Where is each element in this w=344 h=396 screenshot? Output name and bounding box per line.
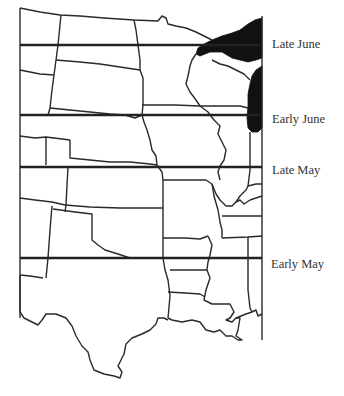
border-ne-ia — [142, 115, 163, 180]
border-ok-panhandle — [46, 206, 52, 278]
border-ar-east — [207, 236, 212, 270]
border-il-in — [248, 132, 250, 186]
border-il-ky — [236, 184, 262, 202]
border-mo-ar — [163, 236, 208, 239]
north-border — [20, 8, 212, 40]
border-tx-la — [163, 258, 170, 318]
border-sd-ne — [50, 108, 142, 118]
label-early-may: Early May — [271, 257, 324, 272]
border-ia-mo — [163, 180, 212, 184]
border-nd-sd — [56, 60, 140, 70]
border-mo-ar-bootheel — [212, 184, 222, 238]
border-wy-mt — [20, 70, 54, 75]
border-wi-il — [200, 106, 248, 108]
gulf-coast-ms — [236, 310, 262, 318]
central-us-map — [0, 0, 344, 396]
lake-michigan — [247, 66, 262, 132]
texas-outline — [20, 275, 168, 378]
border-ms-al — [248, 237, 252, 312]
border-mn-wi — [186, 54, 200, 106]
border-in-ky — [250, 196, 262, 200]
border-mo-river — [212, 184, 250, 206]
border-ia-il — [200, 106, 226, 180]
border-nd-mn — [134, 20, 143, 115]
louisiana-outline — [168, 270, 242, 340]
border-mn-ia — [142, 105, 200, 106]
border-nm-co — [20, 198, 65, 205]
border-ne-co — [70, 140, 157, 165]
border-wi-mi-up — [212, 60, 250, 80]
label-late-may: Late May — [272, 163, 320, 178]
label-early-june: Early June — [272, 112, 325, 127]
border-ks-ok — [65, 205, 163, 208]
label-late-june: Late June — [272, 37, 320, 52]
border-ms-tn — [222, 236, 262, 238]
border-tx-nm — [20, 275, 43, 278]
border-wy-co — [20, 136, 70, 140]
lake-superior — [196, 18, 262, 62]
border-ok-north — [53, 209, 163, 258]
border-ar-tx — [168, 292, 205, 297]
